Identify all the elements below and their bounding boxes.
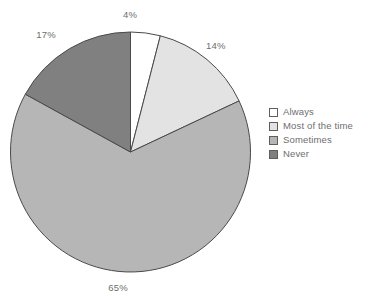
legend-label: Sometimes: [283, 135, 332, 145]
legend-item-sometimes: Sometimes: [269, 133, 377, 147]
chart-legend: Always Most of the time Sometimes Never: [269, 105, 377, 161]
pie-slice-group: [10, 32, 250, 272]
legend-label: Most of the time: [283, 121, 353, 131]
legend-swatch-icon: [269, 108, 278, 117]
legend-item-never: Never: [269, 147, 377, 161]
legend-label: Never: [283, 149, 309, 159]
legend-swatch-icon: [269, 122, 278, 131]
data-label-most: 14%: [206, 41, 226, 51]
legend-swatch-icon: [269, 150, 278, 159]
legend-label: Always: [283, 107, 314, 117]
legend-item-most-of-the-time: Most of the time: [269, 119, 377, 133]
legend-swatch-icon: [269, 136, 278, 145]
legend-item-always: Always: [269, 105, 377, 119]
data-label-never: 17%: [36, 30, 56, 40]
data-label-sometimes: 65%: [108, 283, 128, 293]
pie-chart: 4% 14% 65% 17% Always Most of the time S…: [0, 0, 378, 304]
data-label-always: 4%: [123, 10, 137, 20]
